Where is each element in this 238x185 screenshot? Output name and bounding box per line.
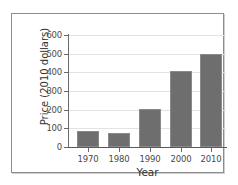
- figure-frame: Price (2010 dollars) 600 500 400 300 200…: [11, 13, 224, 173]
- y-tick-label-600: 600: [46, 30, 62, 40]
- figure-root: Price (2010 dollars) 600 500 400 300 200…: [0, 0, 238, 185]
- y-tick-label-100: 100: [46, 123, 62, 133]
- x-tick-label-1980: 1980: [109, 154, 130, 164]
- y-tick-label-0: 0: [57, 142, 62, 152]
- x-axis-spine: [68, 147, 227, 148]
- bar-1980: [108, 133, 130, 147]
- x-tick-label-1990: 1990: [140, 154, 161, 164]
- gridline-600: [69, 35, 226, 36]
- x-tick-mark-2010: [211, 148, 212, 152]
- y-tick-label-400: 400: [46, 67, 62, 77]
- x-tick-label-2010: 2010: [201, 154, 222, 164]
- x-tick-mark-2000: [181, 148, 182, 152]
- x-axis-title: Year: [69, 166, 226, 178]
- x-tick-mark-1990: [150, 148, 151, 152]
- bar-2010: [200, 54, 222, 147]
- y-tick-label-300: 300: [46, 86, 62, 96]
- bar-2000: [170, 71, 192, 148]
- x-tick-label-2000: 2000: [171, 154, 192, 164]
- bar-1990: [139, 109, 161, 147]
- y-tick-label-200: 200: [46, 105, 62, 115]
- bar-1970: [77, 131, 99, 147]
- x-tick-mark-1970: [88, 148, 89, 152]
- plot-area: [69, 35, 226, 147]
- x-tick-mark-1980: [119, 148, 120, 152]
- y-tick-label-500: 500: [46, 49, 62, 59]
- x-tick-label-1970: 1970: [78, 154, 99, 164]
